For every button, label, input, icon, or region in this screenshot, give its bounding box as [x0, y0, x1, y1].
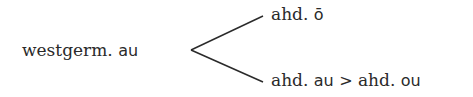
lower-prefix: ahd.: [271, 70, 308, 90]
upper-branch-label: ahd. ō: [271, 6, 324, 23]
lower-sound: au: [314, 71, 334, 90]
lower-prefix-2: ahd.: [358, 70, 395, 90]
lower-sound-2: ou: [401, 71, 421, 90]
lower-branch-line: [191, 50, 263, 82]
upper-branch-line: [191, 16, 263, 50]
upper-prefix: ahd.: [271, 4, 308, 24]
lower-branch-label: ahd. au > ahd. ou: [271, 72, 421, 89]
upper-sound: ō: [314, 5, 324, 24]
arrow-symbol: >: [339, 71, 352, 90]
